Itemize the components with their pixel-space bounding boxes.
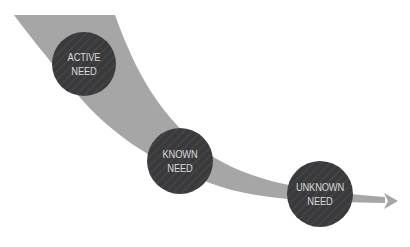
unknown-need-line1: UNKNOWN: [292, 180, 348, 194]
unknown-need-line2: NEED: [292, 194, 348, 208]
need-progression-diagram: ACTIVE NEED KNOWN NEED UNKNOWN NEED: [0, 0, 410, 247]
arrow-head-icon: [384, 193, 398, 209]
known-need-line1: KNOWN: [152, 147, 208, 161]
active-need-line2: NEED: [56, 64, 112, 78]
known-need-label: KNOWN NEED: [152, 147, 208, 175]
active-need-line1: ACTIVE: [56, 50, 112, 64]
unknown-need-label: UNKNOWN NEED: [292, 180, 348, 208]
active-need-label: ACTIVE NEED: [56, 50, 112, 78]
known-need-line2: NEED: [152, 161, 208, 175]
